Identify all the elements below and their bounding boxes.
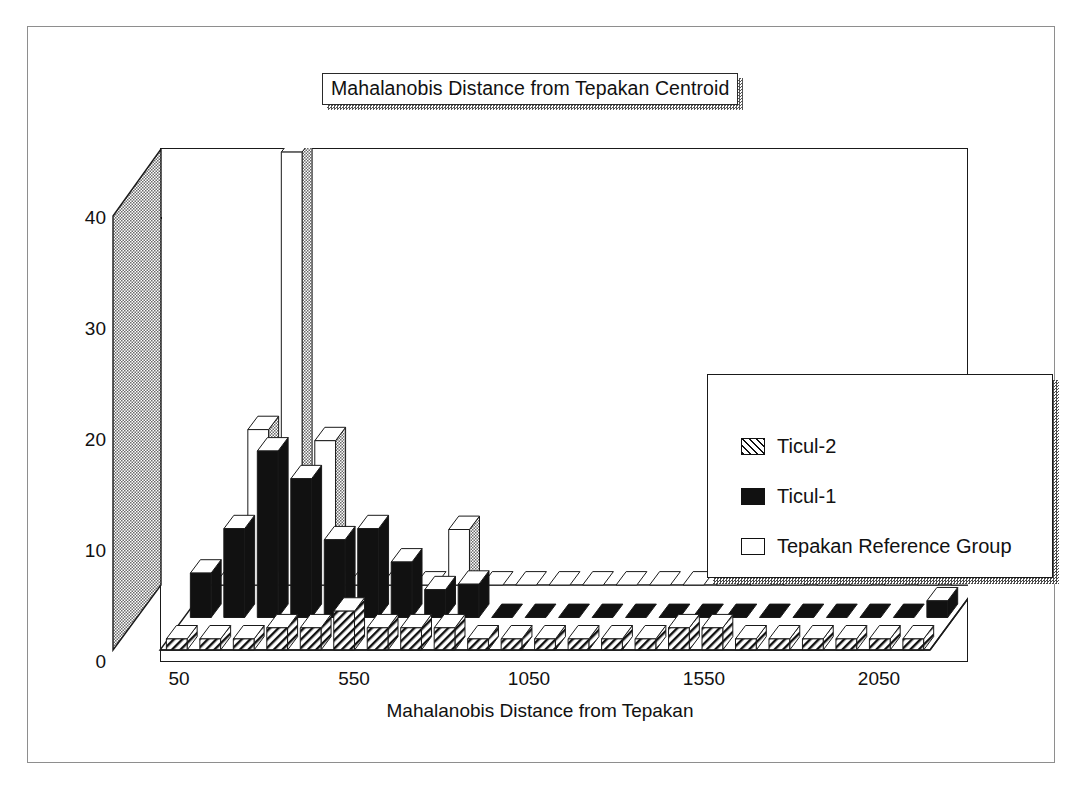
legend-item-ticul-1[interactable]: Ticul-1 [741,476,1012,516]
y-tick-10: 10 [60,540,106,562]
legend-swatch-open-icon [741,538,765,555]
legend-label-ticul-1: Ticul-1 [777,485,836,508]
x-tick-1050: 1050 [508,668,550,690]
chart-title-container: Mahalanobis Distance from Tepakan Centro… [322,73,738,105]
y-tick-0: 0 [60,651,106,673]
legend: Ticul-2 Ticul-1 Tepakan Reference Group [707,374,1053,578]
y-tick-40: 40 [60,207,106,229]
plot-area: Number of Specimens 40 30 20 10 0 [112,148,968,678]
y-axis-ticks: 40 30 20 10 0 [60,148,106,662]
x-tick-1550: 1550 [683,668,725,690]
x-axis-ticks: 50 550 1050 1550 2050 [112,668,968,698]
y-tick-20: 20 [60,429,106,451]
x-tick-2050: 2050 [858,668,900,690]
legend-swatch-hatched-icon [741,438,765,455]
page-title: Mahalanobis Distance from Tepakan Centro… [322,73,738,105]
figure-root: Mahalanobis Distance from Tepakan Centro… [0,0,1079,788]
x-tick-50: 50 [168,668,189,690]
legend-item-tepakan-reference-group[interactable]: Tepakan Reference Group [741,526,1012,566]
legend-label-ticul-2: Ticul-2 [777,435,836,458]
y-tick-30: 30 [60,318,106,340]
legend-swatch-solid-icon [741,488,765,505]
x-axis-title: Mahalanobis Distance from Tepakan [112,700,968,722]
legend-item-ticul-2[interactable]: Ticul-2 [741,426,1012,466]
x-tick-550: 550 [338,668,370,690]
legend-items: Ticul-2 Ticul-1 Tepakan Reference Group [741,426,1012,576]
legend-label-tepakan: Tepakan Reference Group [777,535,1012,558]
